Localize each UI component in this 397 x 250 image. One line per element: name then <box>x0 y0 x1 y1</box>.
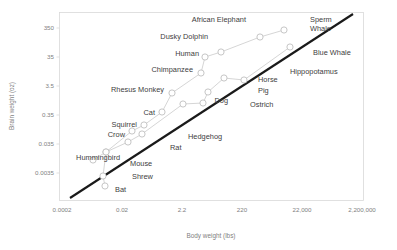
data-point-marker <box>141 122 147 128</box>
data-point-marker <box>281 27 287 33</box>
data-point-label: Bat <box>115 185 126 194</box>
data-point-label: Squirrel <box>112 120 138 129</box>
data-point-marker <box>159 109 165 115</box>
data-point-label: Rhesus Monkey <box>111 85 164 94</box>
data-point-marker <box>218 49 224 55</box>
data-point-label: Pig <box>258 86 269 95</box>
x-tick-label: 0.0002 <box>53 206 72 213</box>
x-tick-label: 0.02 <box>116 206 129 213</box>
data-point-marker <box>200 100 206 106</box>
data-point-label: Hummingbird <box>76 153 120 162</box>
data-point-marker <box>221 75 227 81</box>
data-point-marker <box>100 173 106 179</box>
data-point-label: Whale <box>310 24 331 33</box>
plot-canvas: African ElephantSpermWhaleDusky DolphinB… <box>0 0 397 250</box>
data-point-label: Chimpanzee <box>152 65 194 74</box>
data-point-marker <box>287 44 293 50</box>
y-tick-label: 350 <box>44 24 55 31</box>
data-point-label: African Elephant <box>192 15 246 24</box>
data-point-label: Dog <box>214 96 228 105</box>
data-point-label: Human <box>175 49 199 58</box>
y-axis-title: Brain weight (oz) <box>8 82 16 130</box>
data-point-label: Blue Whale <box>313 48 351 57</box>
data-point-marker <box>198 70 204 76</box>
x-tick-label: 2.2 <box>178 206 187 213</box>
data-point-label: Ostrich <box>250 100 273 109</box>
x-tick-label: 220 <box>237 206 248 213</box>
data-point-marker <box>241 77 247 83</box>
data-point-marker <box>180 101 186 107</box>
y-tick-label: 3.5 <box>45 82 54 89</box>
y-tick-label: 0.35 <box>42 111 55 118</box>
y-tick-label: 35 <box>47 53 54 60</box>
data-point-label: Rat <box>170 143 182 152</box>
data-point-label: Dusky Dolphin <box>160 32 208 41</box>
data-point-marker <box>139 131 145 137</box>
data-point-label: Hedgehog <box>188 132 222 141</box>
markers-upper <box>90 27 287 163</box>
data-point-label: Cat <box>143 108 155 117</box>
x-tick-label: 2,200,000 <box>348 206 376 213</box>
y-tick-label: 0.035 <box>39 140 55 147</box>
data-point-label: Horse <box>258 75 278 84</box>
data-point-label: Hippopotamus <box>290 67 338 76</box>
data-point-marker <box>202 54 208 60</box>
data-point-marker <box>257 34 263 40</box>
y-axis-ticks: 350353.50.350.0350.0035 <box>35 24 59 176</box>
data-point-marker <box>205 89 211 95</box>
data-point-marker <box>169 90 175 96</box>
data-point-marker <box>125 139 131 145</box>
data-point-label: Mouse <box>130 159 152 168</box>
data-point-label: Shrew <box>132 172 154 181</box>
brain-body-weight-chart: African ElephantSpermWhaleDusky DolphinB… <box>0 0 397 250</box>
data-point-label: Crow <box>108 130 126 139</box>
x-tick-label: 22,000 <box>293 206 312 213</box>
data-point-marker <box>102 183 108 189</box>
data-point-label: Sperm <box>310 15 332 24</box>
x-axis-title: Body weight (lbs) <box>186 232 235 240</box>
trend-line <box>70 14 353 198</box>
y-tick-label: 0.0035 <box>35 169 54 176</box>
x-axis-ticks: 0.00020.022.222022,0002,200,000 <box>53 206 377 213</box>
